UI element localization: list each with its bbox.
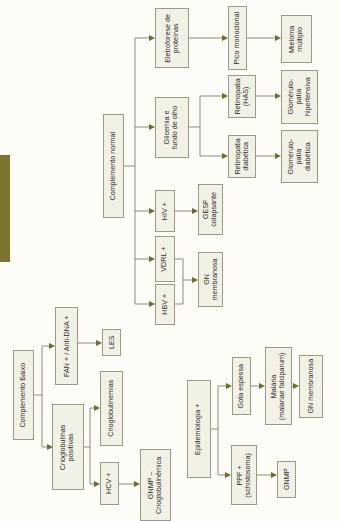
node-label: GESF colapsante bbox=[202, 192, 219, 227]
node-ppf: PPF + (schistosoma) bbox=[231, 445, 257, 505]
node-label: Glicemia e fundo de olho bbox=[164, 106, 181, 150]
node-label: PPF + (schistosoma) bbox=[236, 453, 253, 498]
node-glomerulopatia-diabetica: Glomérulo- patia diabética bbox=[281, 130, 318, 183]
node-hiv: HIV + bbox=[155, 190, 175, 232]
node-label: Malária (malariae falciparum) bbox=[270, 352, 287, 420]
node-gnmp: GNMP bbox=[277, 461, 296, 498]
node-label: Glomérulo- patia diabética bbox=[287, 139, 312, 175]
node-label: Crioglobulinemias bbox=[107, 380, 115, 437]
node-complemento-baixo: Complemento Baixo bbox=[13, 350, 34, 440]
node-gn-membranosa-1: GN membranosa bbox=[198, 252, 223, 307]
node-label: GN membranosa bbox=[202, 259, 219, 301]
node-fan: FAN + / Anti-DNA + bbox=[55, 307, 78, 385]
node-retinopatia-has: Retinopatia (HAS) bbox=[228, 75, 256, 118]
node-label: Complemento Baixo bbox=[19, 363, 27, 428]
node-label: VDRL + bbox=[161, 246, 169, 271]
node-label: GNMP – Crioglobulinêmica bbox=[147, 456, 164, 513]
node-gesf: GESF colapsante bbox=[198, 184, 223, 235]
node-gnmp-crioglobulinemica: GNMP – Crioglobulinêmica bbox=[140, 449, 171, 521]
node-label: Gota espessa bbox=[237, 364, 245, 408]
node-label: HBV + bbox=[161, 294, 169, 315]
node-label: Mieloma múltiplo bbox=[288, 25, 305, 52]
node-glomerulopatia-hipertensiva: Glomérulo- patia hipertensiva bbox=[281, 70, 318, 124]
node-glicemia: Glicemia e fundo de olho bbox=[155, 97, 189, 158]
node-label: Retinopatia (HAS) bbox=[234, 78, 251, 114]
node-retinopatia-diabetica: Retinopatia diabética bbox=[228, 135, 256, 178]
node-label: LES bbox=[107, 336, 115, 350]
node-mieloma: Mieloma múltiplo bbox=[281, 15, 312, 63]
node-gota-espessa: Gota espessa bbox=[232, 357, 251, 415]
node-crioglobulinemias: Crioglobulinemias bbox=[100, 371, 123, 446]
node-label: Eletroforese de proteínas bbox=[164, 14, 181, 63]
node-label: Retinopatia diabética bbox=[234, 138, 251, 174]
node-label: Crioglobulinas positivas bbox=[60, 424, 77, 470]
node-label: FAN + / Anti-DNA + bbox=[62, 315, 70, 377]
node-crioglobulinas: Crioglobulinas positivas bbox=[52, 404, 84, 490]
node-label: GN membranosa bbox=[307, 359, 315, 414]
node-label: Complemento normal bbox=[109, 132, 117, 201]
node-label: Pico monoclonal bbox=[233, 12, 241, 65]
node-hcv: HCV + bbox=[100, 462, 119, 505]
node-complemento-normal: Complemento normal bbox=[103, 114, 124, 218]
node-label: HCV + bbox=[105, 473, 113, 494]
node-pico-monoclonal: Pico monoclonal bbox=[228, 6, 247, 70]
node-epidemiologia: Epidemiologia + bbox=[187, 380, 211, 478]
node-label: GNMP bbox=[282, 469, 290, 491]
node-les: LES bbox=[102, 329, 121, 356]
node-eletroforese: Eletroforese de proteínas bbox=[155, 8, 189, 68]
node-hbv: HBV + bbox=[155, 284, 175, 325]
node-malaria: Malária (malariae falciparum) bbox=[265, 347, 292, 425]
node-vdrl: VDRL + bbox=[155, 236, 175, 282]
node-label: Glomérulo- patia hipertensiva bbox=[287, 78, 312, 117]
node-label: HIV + bbox=[161, 202, 169, 220]
node-label: Epidemiologia + bbox=[195, 403, 203, 454]
node-gn-membranosa-2: GN membranosa bbox=[299, 355, 323, 418]
